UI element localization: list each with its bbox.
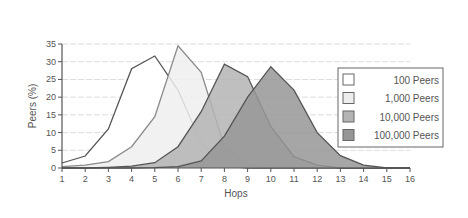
legend: 100 Peers1,000 Peers10,000 Peers100,000 … [338, 68, 443, 147]
y-tick-label: 5 [51, 145, 56, 155]
x-tick-label: 5 [152, 174, 157, 184]
y-tick-label: 20 [46, 92, 56, 102]
x-tick-label: 13 [335, 174, 345, 184]
x-tick-label: 12 [312, 174, 322, 184]
x-tick-label: 8 [222, 174, 227, 184]
x-axis-title: Hops [224, 188, 247, 199]
legend-label: 100,000 Peers [374, 130, 439, 141]
x-tick-label: 2 [83, 174, 88, 184]
legend-swatch [343, 111, 354, 122]
x-tick-label: 6 [175, 174, 180, 184]
chart: 0510152025303512345678910111213141516 Ho… [0, 0, 468, 218]
x-tick-label: 1 [59, 174, 64, 184]
x-tick-label: 9 [245, 174, 250, 184]
x-tick-label: 10 [266, 174, 276, 184]
legend-swatch [343, 130, 354, 141]
y-tick-label: 25 [46, 74, 56, 84]
y-tick-label: 15 [46, 110, 56, 120]
legend-label: 100 Peers [393, 75, 439, 86]
y-tick-label: 30 [46, 57, 56, 67]
y-axis-title: Peers (%) [27, 84, 38, 128]
legend-label: 10,000 Peers [380, 112, 440, 123]
y-tick-label: 10 [46, 128, 56, 138]
x-tick-label: 11 [289, 174, 298, 184]
legend-swatch [343, 93, 354, 104]
y-tick-label: 0 [51, 163, 56, 173]
legend-label: 1,000 Peers [385, 93, 439, 104]
x-tick-label: 16 [405, 174, 415, 184]
x-tick-label: 15 [382, 174, 392, 184]
x-tick-label: 3 [106, 174, 111, 184]
x-tick-label: 4 [129, 174, 134, 184]
legend-swatch [343, 74, 354, 85]
x-tick-label: 14 [359, 174, 369, 184]
x-tick-label: 7 [199, 174, 204, 184]
y-tick-label: 35 [46, 39, 56, 49]
